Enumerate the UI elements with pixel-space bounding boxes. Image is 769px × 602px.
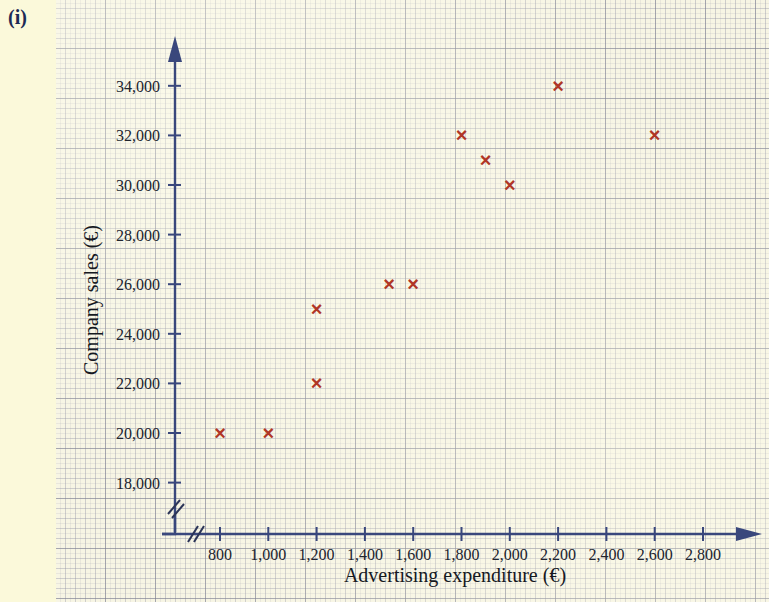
- y-tick-label: 24,000: [116, 326, 160, 343]
- x-axis-arrow-icon: [736, 527, 762, 541]
- data-point-marker: ×: [311, 298, 323, 320]
- x-axis-ticks: 8001,0001,2001,4001,6001,8002,0002,2002,…: [208, 527, 721, 563]
- y-axis-arrow-icon: [168, 36, 182, 62]
- y-tick-label: 32,000: [116, 127, 160, 144]
- x-tick-label: 2,000: [492, 546, 528, 563]
- y-tick-label: 30,000: [116, 177, 160, 194]
- x-axis-title: Advertising expenditure (€): [344, 564, 566, 587]
- data-point-marker: ×: [456, 124, 468, 146]
- data-point-marker: ×: [407, 273, 419, 295]
- y-axis-ticks: 18,00020,00022,00024,00026,00028,00030,0…: [116, 78, 181, 492]
- data-point-marker: ×: [504, 174, 516, 196]
- x-tick-label: 1,800: [444, 546, 480, 563]
- y-tick-label: 26,000: [116, 276, 160, 293]
- x-tick-label: 1,600: [395, 546, 431, 563]
- y-tick-label: 20,000: [116, 425, 160, 442]
- data-point-marker: ×: [214, 422, 226, 444]
- y-tick-label: 22,000: [116, 375, 160, 392]
- x-tick-label: 1,000: [250, 546, 286, 563]
- x-tick-label: 2,600: [637, 546, 673, 563]
- x-tick-label: 1,200: [299, 546, 335, 563]
- x-tick-label: 1,400: [347, 546, 383, 563]
- x-tick-label: 2,200: [540, 546, 576, 563]
- y-axis-title: Company sales (€): [80, 225, 103, 375]
- data-point-marker: ×: [383, 273, 395, 295]
- scatter-plot-svg: 18,00020,00022,00024,00026,00028,00030,0…: [0, 0, 769, 602]
- x-tick-label: 2,800: [685, 546, 721, 563]
- y-tick-label: 28,000: [116, 227, 160, 244]
- data-point-marker: ×: [262, 422, 274, 444]
- data-point-marker: ×: [552, 75, 564, 97]
- scatter-plot-page: (i) 18,00020,00022,00024,00026,00028,000…: [0, 0, 769, 602]
- x-tick-label: 800: [208, 546, 232, 563]
- data-point-marker: ×: [649, 124, 661, 146]
- data-point-series: ×××××××××××: [214, 75, 660, 444]
- x-tick-label: 2,400: [588, 546, 624, 563]
- data-point-marker: ×: [311, 372, 323, 394]
- data-point-marker: ×: [480, 149, 492, 171]
- y-tick-label: 18,000: [116, 475, 160, 492]
- y-tick-label: 34,000: [116, 78, 160, 95]
